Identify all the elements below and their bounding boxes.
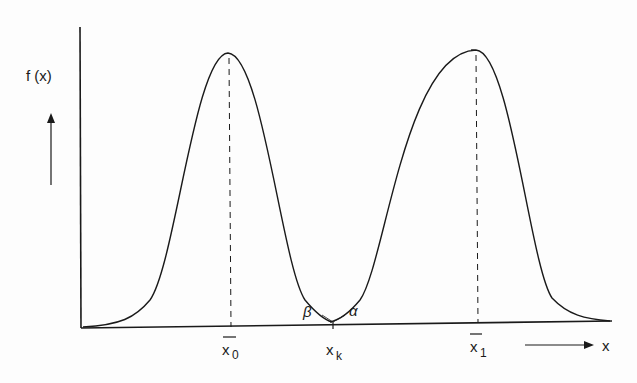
- diagram-canvas: f (x) x x 0 x k x 1 β α: [0, 0, 637, 383]
- alpha-pointer: [333, 315, 345, 322]
- bell-curve-left: [83, 53, 332, 327]
- x-axis-label: x: [602, 337, 610, 354]
- mean-line-x0: [229, 58, 231, 327]
- mean-line-x1: [476, 55, 478, 323]
- x1-subscript: 1: [480, 346, 487, 360]
- x1-label: x: [470, 338, 478, 355]
- x-axis: [81, 321, 612, 328]
- x0-subscript: 0: [232, 348, 239, 362]
- beta-label: β: [302, 303, 312, 320]
- up-arrow-icon: [47, 113, 55, 123]
- diagram-svg: f (x) x x 0 x k x 1 β α: [0, 0, 637, 383]
- right-arrow-icon: [584, 341, 594, 349]
- y-axis-label: f (x): [26, 67, 52, 84]
- alpha-label: α: [349, 302, 358, 319]
- bell-curve-right: [330, 50, 610, 322]
- y-axis: [80, 27, 81, 328]
- xk-label: x: [326, 341, 334, 358]
- x0-label: x: [222, 341, 230, 358]
- xk-subscript: k: [336, 349, 343, 363]
